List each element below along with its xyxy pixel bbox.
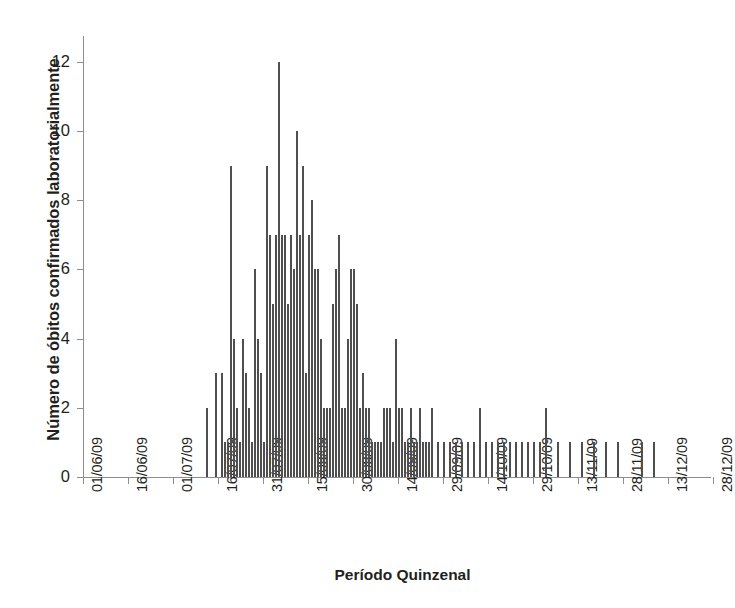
bar xyxy=(335,269,337,477)
bar xyxy=(356,304,358,477)
bar xyxy=(251,442,253,477)
bar xyxy=(437,442,439,477)
x-axis-tick xyxy=(173,477,174,484)
bar xyxy=(272,304,274,477)
x-axis-tick xyxy=(263,477,264,484)
bar xyxy=(284,235,286,477)
bar xyxy=(368,408,370,477)
bar xyxy=(341,408,343,477)
bar xyxy=(443,442,445,477)
bar xyxy=(344,408,346,477)
bar xyxy=(419,408,421,477)
bar xyxy=(455,442,457,477)
bar xyxy=(392,442,394,477)
bar xyxy=(569,442,571,477)
x-axis-tick xyxy=(488,477,489,484)
bar xyxy=(263,442,265,477)
x-axis-tick xyxy=(713,477,714,484)
bar xyxy=(371,442,373,477)
bar xyxy=(239,442,241,477)
x-axis-tick xyxy=(353,477,354,484)
bar xyxy=(224,442,226,477)
y-axis-tick-label: 6 xyxy=(40,259,70,278)
bar xyxy=(416,442,418,477)
bar xyxy=(347,339,349,477)
bar xyxy=(281,235,283,477)
bar xyxy=(539,442,541,477)
bar xyxy=(413,442,415,477)
bar xyxy=(404,442,406,477)
bar xyxy=(245,373,247,477)
bar xyxy=(533,442,535,477)
bar xyxy=(248,408,250,477)
bar xyxy=(515,442,517,477)
y-axis-tick-label: 12 xyxy=(40,52,70,71)
x-axis-tick-label: 28/12/09 xyxy=(719,437,735,492)
bar xyxy=(398,408,400,477)
x-axis-tick xyxy=(443,477,444,484)
bar xyxy=(215,373,217,477)
bar xyxy=(314,269,316,477)
bar xyxy=(479,408,481,477)
bar xyxy=(329,408,331,477)
bar xyxy=(227,442,229,477)
bar xyxy=(233,339,235,477)
bar xyxy=(242,339,244,477)
bar xyxy=(206,408,208,477)
bar xyxy=(302,166,304,477)
bar xyxy=(491,442,493,477)
bar xyxy=(266,166,268,477)
bar xyxy=(593,442,595,477)
bar xyxy=(485,442,487,477)
bar xyxy=(374,442,376,477)
bar xyxy=(311,200,313,477)
bar xyxy=(380,442,382,477)
bar xyxy=(503,442,505,477)
x-axis-tick xyxy=(578,477,579,484)
bar xyxy=(581,442,583,477)
x-axis-tick xyxy=(218,477,219,484)
x-axis-tick xyxy=(398,477,399,484)
bar xyxy=(359,408,361,477)
x-axis-tick xyxy=(128,477,129,484)
bar xyxy=(545,408,547,477)
bar xyxy=(410,408,412,477)
x-axis-tick xyxy=(668,477,669,484)
bar xyxy=(290,235,292,477)
bar xyxy=(383,408,385,477)
bar xyxy=(389,408,391,477)
bar xyxy=(317,269,319,477)
bar xyxy=(320,339,322,477)
bar-series xyxy=(83,40,713,477)
bar xyxy=(557,442,559,477)
bar xyxy=(377,442,379,477)
y-axis-tick-label: 4 xyxy=(40,329,70,348)
x-axis-title: Período Quinzenal xyxy=(80,566,725,584)
bar xyxy=(521,442,523,477)
bar xyxy=(257,339,259,477)
bar xyxy=(350,269,352,477)
bar xyxy=(260,373,262,477)
bar xyxy=(605,442,607,477)
x-axis-tick xyxy=(83,477,84,484)
bar xyxy=(653,442,655,477)
bar xyxy=(431,408,433,477)
bar xyxy=(425,442,427,477)
bar xyxy=(296,131,298,477)
y-axis-tick-label: 0 xyxy=(40,467,70,486)
bar xyxy=(353,269,355,477)
bar xyxy=(338,235,340,477)
bar xyxy=(473,442,475,477)
x-axis-tick xyxy=(533,477,534,484)
bar xyxy=(467,442,469,477)
bar xyxy=(308,235,310,477)
bar xyxy=(269,235,271,477)
bar xyxy=(299,235,301,477)
bar xyxy=(230,166,232,477)
bar xyxy=(386,408,388,477)
bar xyxy=(221,373,223,477)
bar xyxy=(293,269,295,477)
bar xyxy=(362,373,364,477)
y-axis-tick-label: 8 xyxy=(40,190,70,209)
